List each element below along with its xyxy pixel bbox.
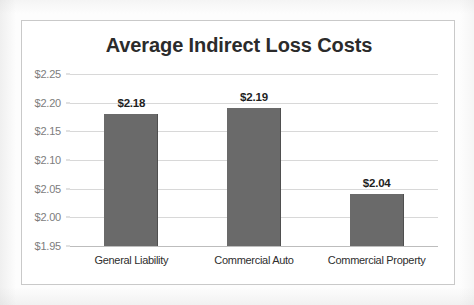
y-tick-mark — [66, 217, 70, 218]
bar[interactable] — [104, 114, 158, 246]
chart-frame: Average Indirect Loss Costs $2.25$2.20$2… — [21, 20, 455, 285]
y-tick-mark — [66, 160, 70, 161]
y-axis-tick-label: $2.25 — [34, 68, 61, 80]
scanned-page: Average Indirect Loss Costs $2.25$2.20$2… — [0, 0, 474, 305]
bar-value-label: $2.19 — [240, 91, 268, 103]
bar-value-label: $2.04 — [363, 177, 391, 189]
plot-area: $2.25$2.20$2.15$2.10$2.05$2.00$1.95$2.18… — [70, 74, 438, 246]
y-axis-tick-label: $2.20 — [34, 97, 61, 109]
y-tick-mark — [66, 188, 70, 189]
x-axis-category-label: General Liability — [94, 254, 168, 266]
gridline-225 — [70, 74, 438, 75]
y-axis-tick-label: $1.95 — [34, 240, 61, 252]
y-tick-mark — [66, 246, 70, 247]
chart-title: Average Indirect Loss Costs — [22, 34, 456, 57]
bar-value-label: $2.18 — [117, 97, 145, 109]
bar[interactable] — [350, 194, 404, 246]
bar[interactable] — [227, 108, 281, 246]
x-axis-category-label: Commercial Auto — [214, 254, 293, 266]
y-tick-mark — [66, 102, 70, 103]
gridline-195 — [70, 246, 438, 247]
y-axis-tick-label: $2.05 — [34, 183, 61, 195]
y-axis-tick-label: $2.10 — [34, 154, 61, 166]
y-axis-tick-label: $2.15 — [34, 125, 61, 137]
y-axis-tick-label: $2.00 — [34, 211, 61, 223]
y-tick-mark — [66, 131, 70, 132]
y-tick-mark — [66, 74, 70, 75]
x-axis-category-label: Commercial Property — [328, 254, 426, 266]
